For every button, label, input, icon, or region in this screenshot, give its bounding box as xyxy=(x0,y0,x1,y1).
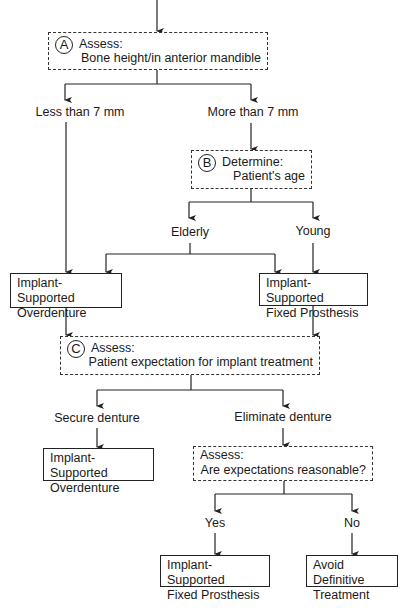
branch-label-no: No xyxy=(344,516,360,530)
node-detail: Are expectations reasonable? xyxy=(200,463,366,478)
branch-label-yes: Yes xyxy=(205,516,225,530)
node-line-1: Implant-Supported xyxy=(50,451,147,481)
assess-expectation-node: CAssess: Patient expectation for implant… xyxy=(60,336,320,375)
marker-a-icon: A xyxy=(55,36,73,54)
node-heading: Assess: xyxy=(200,448,366,463)
overdenture-outcome-node: Implant-Supported Overdenture xyxy=(10,273,122,308)
branch-label-more-than-7: More than 7 mm xyxy=(207,105,298,119)
fixed-prosthesis-outcome-node: Implant-Supported Fixed Prosthesis xyxy=(259,273,368,306)
node-line-2: Treatment xyxy=(313,588,391,603)
branch-label-secure-denture: Secure denture xyxy=(54,411,139,425)
node-line-2: Fixed Prosthesis xyxy=(167,588,263,603)
assess-reasonable-node: Assess: Are expectations reasonable? xyxy=(193,446,373,481)
marker-b-icon: B xyxy=(198,154,216,172)
node-line-1: Avoid Definitive xyxy=(313,558,391,588)
node-heading: Assess: xyxy=(79,37,123,51)
avoid-treatment-outcome-node: Avoid Definitive Treatment xyxy=(306,555,398,587)
fixed-prosthesis-outcome-node-2: Implant-Supported Fixed Prosthesis xyxy=(160,555,270,587)
node-detail: Patient expectation for implant treatmen… xyxy=(67,355,313,370)
overdenture-outcome-node-2: Implant-Supported Overdenture xyxy=(43,448,154,481)
branch-label-less-than-7: Less than 7 mm xyxy=(36,105,125,119)
node-detail: Bone height/in anterior mandible xyxy=(55,51,261,66)
node-line-1: Implant-Supported xyxy=(266,276,361,306)
marker-c-icon: C xyxy=(67,340,85,358)
assess-bone-height-node: AAssess: Bone height/in anterior mandibl… xyxy=(48,32,268,70)
branch-label-young: Young xyxy=(296,224,331,238)
node-line-1: Implant-Supported xyxy=(17,276,115,306)
branch-label-elderly: Elderly xyxy=(171,225,209,239)
node-line-2: Fixed Prosthesis xyxy=(266,306,361,321)
determine-age-node: BDetermine: Patient's age xyxy=(191,150,312,189)
branch-label-eliminate-denture: Eliminate denture xyxy=(234,410,331,424)
node-line-1: Implant-Supported xyxy=(167,558,263,588)
node-line-2: Overdenture xyxy=(50,481,147,496)
node-heading: Determine: xyxy=(222,155,283,169)
node-line-2: Overdenture xyxy=(17,306,115,321)
node-heading: Assess: xyxy=(91,341,135,355)
